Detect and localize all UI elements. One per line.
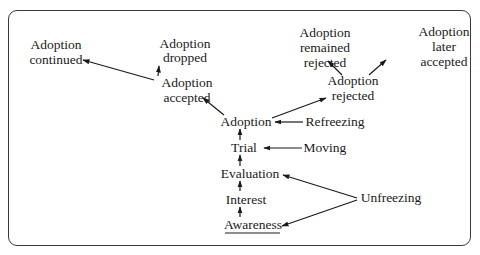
node-label: Unfreezing — [361, 190, 422, 205]
node-unfreezing: Unfreezing — [361, 190, 422, 205]
node-label: Evaluation — [221, 166, 280, 181]
node-refreezing: Refreezing — [305, 114, 364, 129]
node-label-line: Adoption — [161, 75, 212, 90]
node-evaluation: Evaluation — [221, 166, 280, 181]
node-label-line: Adoption — [299, 25, 350, 40]
node-label: Awareness — [224, 217, 282, 232]
node-label-line: accepted — [420, 54, 467, 69]
node-label-line: rejected — [332, 88, 375, 103]
node-adoption-rejected: Adoption rejected — [327, 73, 378, 103]
node-label-line: Adoption — [418, 24, 469, 39]
node-adoption-continued: Adoption continued — [29, 37, 82, 67]
node-label: Trial — [231, 140, 257, 155]
arrow-accepted-to-dropped — [158, 66, 159, 76]
node-adoption-dropped: Adoption dropped — [159, 36, 210, 65]
arrow-unfreezing-to-evaluation — [283, 175, 357, 198]
arrow-unfreezing-to-awareness — [282, 200, 357, 226]
node-label-line: dropped — [163, 50, 207, 65]
node-label-line: Adoption — [30, 37, 81, 52]
node-adoption-remained-rejected: Adoption remained rejected — [299, 25, 350, 70]
node-label-line: Adoption — [159, 36, 210, 51]
node-adoption-accepted: Adoption accepted — [161, 75, 212, 105]
diagram-canvas: Adoption continued Adoption dropped Adop… — [0, 0, 480, 255]
node-label: Moving — [304, 140, 347, 155]
node-label-line: Adoption — [327, 73, 378, 88]
node-adoption-later-accepted: Adoption later accepted — [418, 24, 469, 69]
arrow-accepted-to-continued — [83, 60, 154, 80]
node-adoption: Adoption — [220, 114, 271, 129]
node-interest: Interest — [226, 192, 267, 207]
node-label: Interest — [226, 192, 267, 207]
node-awareness: Awareness — [224, 217, 282, 233]
node-label: Adoption — [220, 114, 271, 129]
node-label-line: later — [432, 39, 456, 54]
node-label-line: rejected — [304, 55, 347, 70]
node-trial: Trial — [231, 140, 257, 155]
node-label: Refreezing — [305, 114, 364, 129]
node-label-line: continued — [29, 52, 82, 67]
node-label-line: accepted — [163, 90, 210, 105]
node-label-line: remained — [300, 40, 350, 55]
arrow-adoption-to-accepted — [203, 98, 224, 115]
node-moving: Moving — [304, 140, 347, 155]
